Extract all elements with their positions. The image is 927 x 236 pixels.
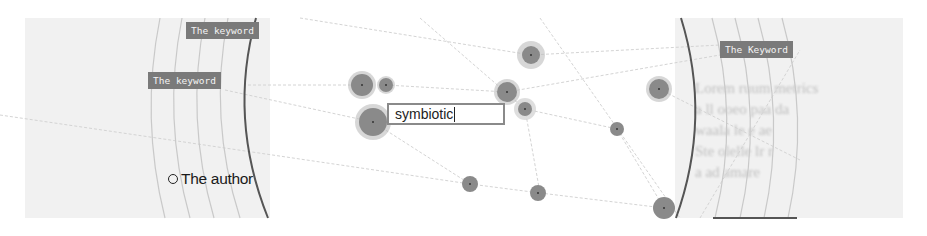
search-input[interactable]: symbiotic — [387, 103, 505, 125]
search-input-value: symbiotic — [395, 106, 453, 122]
node — [530, 185, 546, 201]
left-boundary-arc — [244, 18, 268, 218]
author-label: The author — [181, 170, 253, 188]
left-guide-arcs — [151, 18, 240, 218]
node — [355, 104, 391, 140]
node — [646, 76, 672, 102]
nodes[interactable] — [348, 41, 675, 219]
node — [653, 197, 675, 219]
node — [462, 176, 478, 192]
author-node[interactable]: The author — [168, 170, 253, 188]
keyword-label-right[interactable]: The Keyword — [720, 41, 793, 58]
node — [610, 122, 624, 136]
network-visualization: Lorem ruum metrics a ll ooeo paa da waal… — [0, 0, 927, 236]
author-circle-icon — [168, 174, 178, 184]
node — [377, 76, 395, 94]
node — [348, 71, 376, 99]
node — [517, 41, 545, 69]
node — [494, 79, 520, 105]
keyword-label-mid-left[interactable]: The keyword — [148, 72, 221, 89]
keyword-label-top-left[interactable]: The keyword — [186, 22, 259, 39]
node — [514, 98, 536, 120]
right-boundary-arc — [676, 18, 695, 218]
text-caret — [454, 107, 455, 122]
